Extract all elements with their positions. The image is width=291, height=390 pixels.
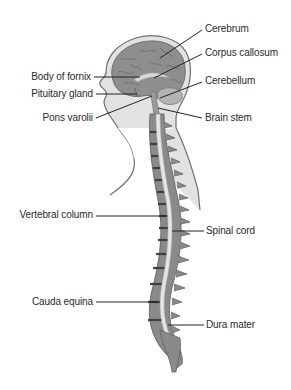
- label-vertebral-column: Vertebral column: [20, 209, 93, 221]
- label-spinal-cord: Spinal cord: [206, 225, 255, 237]
- diagram-stage: Cerebrum Corpus callosum Cerebellum Brai…: [0, 0, 291, 390]
- label-cauda-equina: Cauda equina: [32, 296, 93, 308]
- label-cerebrum: Cerebrum: [205, 23, 249, 35]
- label-brain-stem: Brain stem: [205, 112, 252, 124]
- label-body-of-fornix: Body of fornix: [31, 71, 91, 83]
- label-pons-varolii: Pons varolii: [43, 112, 94, 124]
- label-pituitary-gland: Pituitary gland: [31, 88, 93, 100]
- label-corpus-callosum: Corpus callosum: [205, 47, 278, 59]
- label-cerebellum: Cerebellum: [205, 75, 255, 87]
- label-dura-mater: Dura mater: [206, 319, 255, 331]
